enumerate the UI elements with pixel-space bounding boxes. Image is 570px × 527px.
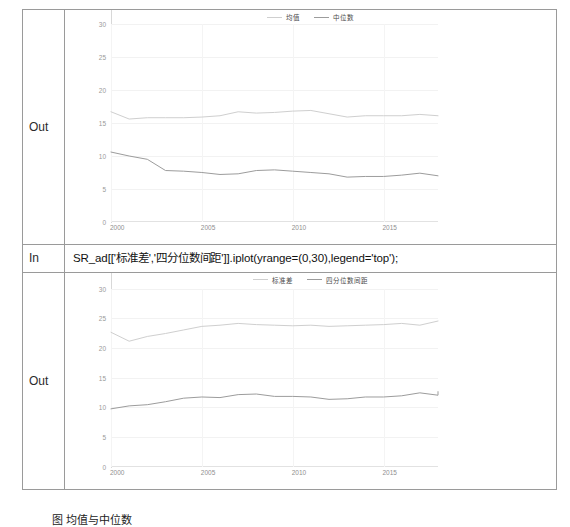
- y-axis-tick-label: 5: [102, 186, 106, 193]
- cell-label-out-1: Out: [23, 10, 65, 244]
- x-axis-tick-label: 2010: [292, 469, 306, 476]
- chart-1-plot-area: 0510152025302000200520102015: [111, 24, 438, 222]
- cell-label-in: In: [23, 245, 65, 272]
- legend-swatch-icon: [307, 279, 322, 280]
- y-axis-tick-label: 10: [99, 404, 106, 411]
- legend-swatch-icon: [253, 279, 268, 280]
- legend-swatch-icon: [314, 17, 329, 18]
- notebook-row-input: In SR_ad[['标准差','四分位数间距']].iplot(yrange=…: [23, 245, 556, 273]
- chart-1-series: [111, 24, 438, 222]
- y-axis-tick-label: 20: [99, 86, 106, 93]
- legend-label: 均值: [286, 12, 300, 22]
- cell-label-out-2: Out: [23, 273, 65, 489]
- chart-2-series: [111, 289, 438, 467]
- y-axis-tick-label: 30: [99, 21, 106, 28]
- x-axis-tick-label: 2000: [110, 224, 124, 231]
- chart-1-legend: 均值中位数: [65, 12, 556, 22]
- y-axis-tick-label: 0: [102, 219, 106, 226]
- chart-2-plot-area: 0510152025302000200520102015: [111, 289, 438, 467]
- x-axis-tick-label: 2015: [383, 224, 397, 231]
- notebook-table: Out 均值中位数 0510152025302000200520102015 I…: [22, 9, 557, 490]
- code-text[interactable]: SR_ad[['标准差','四分位数间距']].iplot(yrange=(0,…: [65, 245, 556, 272]
- series-line: [111, 321, 438, 341]
- y-axis-tick-label: 15: [99, 374, 106, 381]
- legend-label: 四分位数间距: [326, 275, 368, 285]
- y-axis-tick-label: 25: [99, 315, 106, 322]
- chart-2: 标准差四分位数间距 0510152025302000200520102015: [65, 273, 556, 489]
- legend-item[interactable]: 中位数: [314, 12, 354, 22]
- notebook-row-output-2: Out 标准差四分位数间距 05101520253020002005201020…: [23, 273, 556, 489]
- x-axis-tick-label: 2005: [201, 224, 215, 231]
- notebook-row-output-1: Out 均值中位数 0510152025302000200520102015: [23, 10, 556, 245]
- x-axis-tick-label: 2015: [383, 469, 397, 476]
- legend-label: 中位数: [333, 12, 354, 22]
- legend-item[interactable]: 标准差: [253, 275, 293, 285]
- output-cell-2: 标准差四分位数间距 0510152025302000200520102015: [65, 273, 556, 489]
- y-axis-tick-label: 20: [99, 345, 106, 352]
- chart-1: 均值中位数 0510152025302000200520102015: [65, 10, 556, 244]
- y-axis-tick-label: 25: [99, 53, 106, 60]
- series-line: [111, 110, 438, 119]
- x-axis-tick-label: 2005: [201, 469, 215, 476]
- y-axis-tick-label: 0: [102, 463, 106, 470]
- legend-item[interactable]: 均值: [267, 12, 300, 22]
- y-axis-tick-label: 5: [102, 434, 106, 441]
- output-cell-1: 均值中位数 0510152025302000200520102015: [65, 10, 556, 244]
- y-axis-tick-label: 15: [99, 120, 106, 127]
- chart-2-legend: 标准差四分位数间距: [65, 275, 556, 285]
- legend-item[interactable]: 四分位数间距: [307, 275, 368, 285]
- series-line: [111, 391, 438, 408]
- series-line: [111, 152, 438, 177]
- input-cell[interactable]: SR_ad[['标准差','四分位数间距']].iplot(yrange=(0,…: [65, 245, 556, 272]
- x-axis-tick-label: 2010: [292, 224, 306, 231]
- legend-label: 标准差: [272, 275, 293, 285]
- y-axis-tick-label: 30: [99, 285, 106, 292]
- x-axis-tick-label: 2000: [110, 469, 124, 476]
- legend-swatch-icon: [267, 17, 282, 18]
- figure-caption: 图 均值与中位数: [52, 511, 132, 527]
- y-axis-tick-label: 10: [99, 152, 106, 159]
